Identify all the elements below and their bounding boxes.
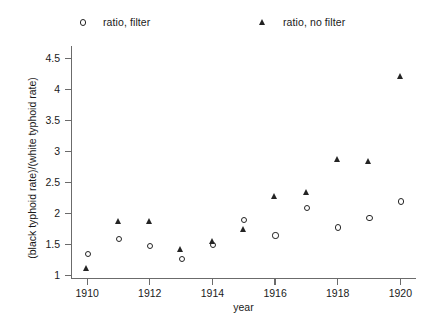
data-points-layer [0, 0, 438, 326]
data-point [145, 241, 154, 250]
data-point [114, 216, 123, 225]
data-point [302, 187, 311, 196]
data-point [177, 244, 186, 253]
data-point [271, 192, 280, 201]
data-point [365, 156, 374, 165]
data-point [208, 237, 217, 246]
data-point [177, 254, 186, 263]
data-point [114, 234, 123, 243]
data-point [271, 231, 280, 240]
data-point [83, 249, 92, 258]
data-point [365, 213, 374, 222]
data-point [333, 155, 342, 164]
data-point [333, 223, 342, 232]
data-point [302, 203, 311, 212]
data-point [145, 216, 154, 225]
data-point [239, 215, 248, 224]
data-point [396, 197, 405, 206]
data-point [396, 71, 405, 80]
scatter-chart: ratio, filter ratio, no filter 11.522.53… [0, 0, 438, 326]
data-point [239, 224, 248, 233]
data-point [83, 263, 92, 272]
